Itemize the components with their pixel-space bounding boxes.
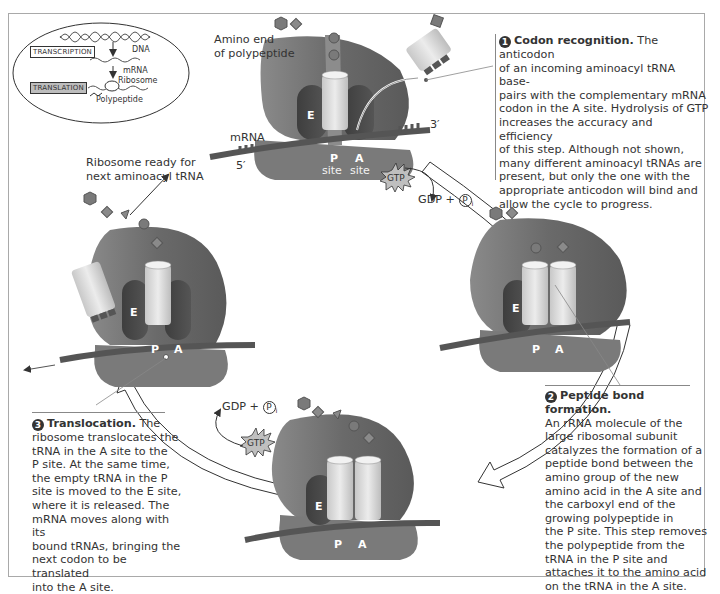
step2-number-badge: 2 (545, 391, 557, 403)
e-site-label-1: E (307, 109, 315, 122)
inset-translation-label: TRANSLATION (30, 82, 87, 94)
ribosome-step4 (25, 192, 255, 387)
a-site-label-4: A (174, 343, 183, 356)
ribosome-ready-label: Ribosome ready for next aminoacyl tRNA (86, 156, 204, 183)
e-site-label-3: E (315, 500, 323, 513)
ribosome-step3 (245, 397, 440, 560)
gdp-pi-label-top: GDP + Pi (418, 193, 473, 212)
p-site-label-2: P (532, 343, 540, 356)
e-site-label-4: E (130, 306, 138, 319)
amino-end-label: Amino end of polypeptide (214, 33, 295, 60)
step3-description: 3Translocation. The ribosome translocate… (32, 417, 182, 594)
step2-rule (545, 385, 690, 386)
three-prime-label: 3′ (430, 118, 440, 132)
p-site-label-3: P (334, 538, 342, 551)
a-site-word-1: site (350, 164, 370, 177)
gdp-pi-label-bottom: GDP + Pi (222, 400, 277, 419)
step3-title: Translocation. (47, 417, 136, 430)
e-site-label-2: E (512, 302, 520, 315)
mrna-label: mRNA (230, 131, 265, 145)
step3-rule (32, 412, 165, 413)
p-site-label-4: P (151, 343, 159, 356)
step1-number-badge: 1 (499, 36, 511, 48)
step2-title: Peptide bond formation. (545, 389, 644, 416)
a-site-label-3: A (358, 538, 367, 551)
inset-transcription-label: TRANSCRIPTION (30, 46, 95, 58)
step1-description: 1Codon recognition. The anticodon of an … (499, 34, 709, 211)
inset-mrna-label: mRNA (123, 66, 148, 75)
step2-description: 2Peptide bond formation. An rRNA molecul… (545, 389, 710, 593)
inset-ribosome-label: Ribosome (118, 76, 158, 85)
inset-overview (13, 23, 189, 123)
step3-number-badge: 3 (32, 419, 44, 431)
five-prime-label: 5′ (236, 159, 246, 173)
step1-title: Codon recognition. (514, 34, 634, 47)
step1-rule (495, 34, 496, 180)
p-site-word-1: site (322, 164, 342, 177)
a-site-label-2: A (555, 343, 564, 356)
inset-dna-label: DNA (132, 45, 150, 54)
gtp-label-top: GTP (387, 172, 405, 186)
inset-polypeptide-label: Polypeptide (96, 95, 143, 104)
gtp-label-bottom: GTP (247, 437, 265, 451)
